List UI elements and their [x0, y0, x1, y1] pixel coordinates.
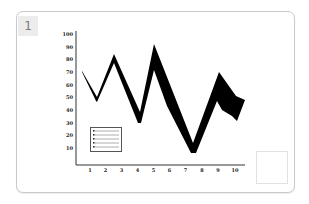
y-tick-labels: 100 90 80 70 60 50 40 30 20 10	[63, 31, 74, 151]
x-tick-labels: 1 2 3 4 5 6 7 8 9 10	[88, 167, 239, 173]
x-tick-label: 4	[136, 167, 140, 173]
x-tick-label: 5	[152, 167, 156, 173]
x-tick-label: 9	[216, 167, 220, 173]
x-tick-label: 3	[120, 167, 124, 173]
x-tick-label: 7	[184, 167, 188, 173]
y-tick-label: 80	[66, 56, 73, 62]
x-tick-label: 10	[232, 167, 239, 173]
y-tick-label: 40	[66, 107, 73, 113]
y-tick-label: 30	[66, 120, 73, 126]
y-tick-label: 20	[66, 132, 73, 138]
x-tick-label: 6	[168, 167, 172, 173]
y-tick-label: 90	[66, 44, 73, 50]
x-tick-label: 2	[104, 167, 108, 173]
y-tick-label: 70	[66, 69, 73, 75]
x-tick-label: 8	[200, 167, 204, 173]
y-tick-label: 60	[66, 82, 73, 88]
y-tick-label: 10	[66, 145, 73, 151]
x-tick-label: 1	[88, 167, 91, 173]
empty-thumbnail-box	[256, 151, 288, 184]
y-tick-label: 50	[66, 94, 73, 100]
legend-box	[91, 128, 122, 152]
y-tick-label: 100	[63, 31, 74, 37]
